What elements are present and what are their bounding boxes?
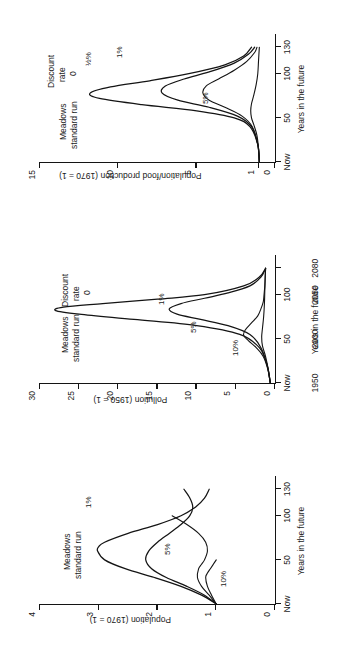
y-tick — [215, 604, 216, 610]
legend-line2: rate — [57, 67, 68, 82]
y-tick — [195, 383, 196, 389]
y-tick-label: 30 — [27, 391, 36, 400]
y-tick — [195, 162, 196, 168]
x-tick-label: 130 — [283, 482, 292, 496]
y-tick — [235, 383, 236, 389]
scenario-note-line1: Meadows — [58, 104, 69, 140]
y-tick — [117, 162, 118, 168]
curve-label-10pct: 10% — [220, 571, 228, 587]
y-tick-label: 0 — [262, 391, 271, 396]
series-curve — [97, 489, 216, 604]
curve-label-10pct: 10% — [232, 340, 240, 356]
x-tick-label: Now — [283, 374, 292, 391]
y-tick — [78, 383, 79, 389]
x-tick-label: 50 — [283, 555, 292, 564]
curve-label-1pct: 1% — [158, 293, 166, 305]
y-tick-label: 1 — [247, 170, 256, 175]
y-tick — [258, 162, 259, 168]
curve-label-1pct: 1% — [85, 496, 93, 508]
y-tick-label: 5 — [223, 391, 232, 396]
legend-line3: 0 — [82, 290, 93, 295]
curve-label-5pct: 5% — [164, 543, 172, 555]
x-tick — [275, 338, 281, 339]
scenario-note-line2: standard run — [71, 314, 82, 362]
y-tick — [274, 604, 275, 610]
series-curve — [90, 47, 260, 162]
y-tick — [39, 604, 40, 610]
legend-line3: 0 — [68, 71, 79, 76]
x-tick-label: 100 — [283, 67, 292, 81]
series-curve — [262, 268, 271, 383]
rotated-figure: 0 1 2 3 4 Now 50 100 130 Meadows standar… — [0, 0, 355, 663]
scenario-note-line1: Meadows — [62, 534, 73, 570]
y-tick — [39, 383, 40, 389]
scenario-note-line1: Meadows — [60, 317, 71, 353]
x-tick-label: 100 — [283, 288, 292, 302]
y-axis-title-population: Population (1970 = 1) — [35, 615, 225, 626]
x-tick — [275, 559, 281, 560]
y-tick — [117, 383, 118, 389]
y-tick — [274, 162, 275, 168]
x-tick-label: 100 — [283, 509, 292, 523]
series-curve — [169, 268, 270, 383]
x-axis-title-population-food: Years in the future — [296, 35, 307, 163]
x-tick — [275, 294, 281, 295]
x-tick — [275, 46, 281, 47]
x-tick — [275, 488, 281, 489]
legend-line2: rate — [71, 286, 82, 301]
y-axis-title-pollution: Pollution (1950 = 1) — [43, 394, 218, 405]
panel-pollution: 0 5 10 15 20 25 30 Now 50 100 1950 2000 — [0, 221, 355, 442]
x-tick — [275, 603, 281, 604]
x-tick-label: 50 — [283, 334, 292, 343]
series-curve — [244, 268, 271, 383]
x-tick — [275, 382, 281, 383]
panel-population: 0 1 2 3 4 Now 50 100 130 Meadows standar… — [0, 442, 355, 663]
panel-population-food: 0 1 5 10 15 Now 50 100 130 Meadows stand… — [0, 0, 355, 221]
x-axis-title-pollution: Years in the future — [310, 256, 321, 384]
scenario-note-line2: standard run — [73, 531, 84, 579]
y-tick — [39, 162, 40, 168]
series-curve — [161, 47, 259, 162]
curve-label-5pct: 5% — [190, 321, 198, 333]
series-curve — [55, 268, 271, 383]
curve-label-half-pct: ½% — [85, 52, 93, 66]
x-tick — [275, 73, 281, 74]
x-tick-label: 130 — [283, 40, 292, 54]
curve-label-1pct: 1% — [116, 46, 124, 58]
x-tick-label: Now — [283, 153, 292, 170]
figure-canvas: 0 1 2 3 4 Now 50 100 130 Meadows standar… — [0, 0, 355, 663]
y-tick — [156, 604, 157, 610]
curve-label-5pct: 5% — [202, 92, 210, 104]
y-tick — [156, 383, 157, 389]
y-tick — [274, 383, 275, 389]
x-tick — [275, 515, 281, 516]
series-curve — [251, 47, 260, 162]
y-tick-label: 0 — [262, 170, 271, 175]
x-tick — [275, 267, 281, 268]
three-panel-figure: 0 1 2 3 4 Now 50 100 130 Meadows standar… — [0, 0, 355, 663]
y-tick — [98, 604, 99, 610]
x-tick-label: Now — [283, 595, 292, 612]
legend-line1: Discount — [46, 55, 57, 88]
x-tick — [275, 117, 281, 118]
y-axis-title-population-food: Population/food production (1970 = 1) — [15, 171, 245, 182]
x-tick-label: 50 — [283, 113, 292, 122]
scenario-note-line2: standard run — [69, 101, 80, 149]
legend-line1: Discount — [60, 274, 71, 307]
y-tick-label: 0 — [262, 612, 271, 617]
x-tick — [275, 161, 281, 162]
x-axis-title-population: Years in the future — [296, 477, 307, 605]
